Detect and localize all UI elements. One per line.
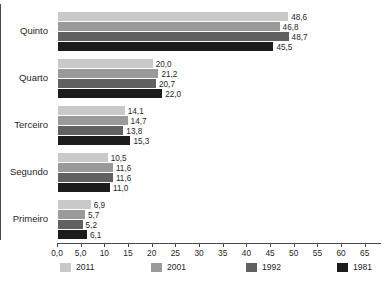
bar-value-label: 15,3 (130, 136, 149, 145)
bar-row: 48,6 (58, 12, 380, 21)
bar-1992-quarto[interactable] (58, 79, 156, 88)
bar-value-label: 11,0 (110, 183, 128, 192)
x-axis-tick (365, 243, 366, 247)
bar-row: 11,0 (58, 183, 380, 192)
bar-1992-terceiro[interactable] (58, 126, 123, 135)
x-axis-tick-label: 65 (360, 248, 369, 258)
chart-legend: 2011200119921981 (0, 262, 384, 278)
bar-1992-segundo[interactable] (58, 173, 113, 182)
x-axis-tick-label: 50 (289, 248, 298, 258)
bar-1981-quarto[interactable] (58, 89, 162, 98)
legend-swatch-icon (60, 263, 71, 272)
bar-2011-segundo[interactable] (58, 153, 108, 162)
x-axis-tick-label: 15 (123, 248, 132, 258)
bar-2011-terceiro[interactable] (58, 106, 125, 115)
bar-row: 13,8 (58, 126, 380, 135)
plot-area: Quinto48,646,848,745,5Quarto20,021,220,7… (57, 4, 379, 243)
legend-label: 2011 (76, 262, 94, 272)
bar-value-label: 20,7 (156, 79, 175, 88)
bar-chart: Quinto48,646,848,745,5Quarto20,021,220,7… (0, 0, 384, 285)
bar-1981-quinto[interactable] (58, 42, 273, 51)
bar-value-label: 5,2 (83, 220, 97, 229)
x-axis-tick-label: 0,0 (51, 248, 63, 258)
bar-2011-quinto[interactable] (58, 12, 288, 21)
bar-1981-primeiro[interactable] (58, 230, 87, 239)
bar-2001-segundo[interactable] (58, 163, 113, 172)
bar-value-label: 45,5 (273, 42, 292, 51)
bar-1992-primeiro[interactable] (58, 220, 83, 229)
bar-value-label: 6,9 (91, 200, 105, 209)
x-axis-tick-label: 55 (313, 248, 322, 258)
bar-value-label: 11,6 (113, 173, 131, 182)
bar-value-label: 6,1 (87, 230, 101, 239)
bar-group-quarto: Quarto20,021,220,722,0 (57, 59, 379, 99)
bar-row: 6,9 (58, 200, 380, 209)
legend-swatch-icon (151, 263, 162, 272)
legend-item-1992[interactable]: 1992 (246, 262, 281, 272)
x-axis-tick-label: 5,0 (75, 248, 87, 258)
x-axis-tick-label: 45 (265, 248, 274, 258)
x-axis-tick (270, 243, 271, 247)
bar-value-label: 46,8 (280, 22, 299, 31)
legend-swatch-icon (337, 263, 348, 272)
bar-value-label: 21,2 (158, 69, 177, 78)
x-axis-tick-label: 25 (171, 248, 180, 258)
legend-item-2001[interactable]: 2001 (151, 262, 186, 272)
legend-swatch-icon (246, 263, 257, 272)
x-axis-tick-label: 40 (242, 248, 251, 258)
bar-value-label: 11,6 (113, 163, 131, 172)
bar-group-quinto: Quinto48,646,848,745,5 (57, 12, 379, 52)
x-axis-tick-label: 60 (336, 248, 345, 258)
x-axis-tick (128, 243, 129, 247)
bar-2001-primeiro[interactable] (58, 210, 85, 219)
bar-row: 11,6 (58, 173, 380, 182)
bar-row: 6,1 (58, 230, 380, 239)
x-axis-tick-label: 10 (100, 248, 109, 258)
category-label: Segundo (10, 166, 48, 177)
bar-row: 14,7 (58, 116, 380, 125)
bar-row: 48,7 (58, 32, 380, 41)
bar-value-label: 20,0 (153, 59, 172, 68)
x-axis-tick (294, 243, 295, 247)
bar-1981-segundo[interactable] (58, 183, 110, 192)
category-label: Quinto (20, 25, 48, 36)
bar-row: 45,5 (58, 42, 380, 51)
bar-row: 20,7 (58, 79, 380, 88)
x-axis-tick (104, 243, 105, 247)
x-axis-tick (223, 243, 224, 247)
category-label: Terceiro (14, 119, 48, 130)
bar-value-label: 14,1 (125, 106, 144, 115)
bar-group-segundo: Segundo10,511,611,611,0 (57, 153, 379, 193)
bar-2001-quinto[interactable] (58, 22, 280, 31)
bar-1981-terceiro[interactable] (58, 136, 130, 145)
category-label: Primeiro (13, 213, 48, 224)
bar-row: 11,6 (58, 163, 380, 172)
bar-row: 20,0 (58, 59, 380, 68)
x-axis-line (57, 243, 381, 244)
bar-2001-quarto[interactable] (58, 69, 158, 78)
bar-row: 15,3 (58, 136, 380, 145)
legend-label: 1992 (262, 262, 281, 272)
bar-row: 22,0 (58, 89, 380, 98)
legend-item-1981[interactable]: 1981 (337, 262, 372, 272)
x-axis-tick (341, 243, 342, 247)
bar-row: 10,5 (58, 153, 380, 162)
x-axis-tick (152, 243, 153, 247)
legend-label: 2001 (167, 262, 186, 272)
bar-2001-terceiro[interactable] (58, 116, 128, 125)
bar-value-label: 10,5 (108, 153, 127, 162)
x-axis-tick (199, 243, 200, 247)
x-axis-tick (317, 243, 318, 247)
x-axis-tick-label: 20 (147, 248, 156, 258)
bar-row: 21,2 (58, 69, 380, 78)
bar-value-label: 5,7 (85, 210, 99, 219)
bar-value-label: 48,7 (289, 32, 308, 41)
legend-item-2011[interactable]: 2011 (60, 262, 94, 272)
bar-1992-quinto[interactable] (58, 32, 289, 41)
bar-row: 46,8 (58, 22, 380, 31)
bar-2011-primeiro[interactable] (58, 200, 91, 209)
bar-row: 5,2 (58, 220, 380, 229)
bar-value-label: 48,6 (288, 12, 307, 21)
x-axis-tick (57, 243, 58, 247)
bar-2011-quarto[interactable] (58, 59, 153, 68)
